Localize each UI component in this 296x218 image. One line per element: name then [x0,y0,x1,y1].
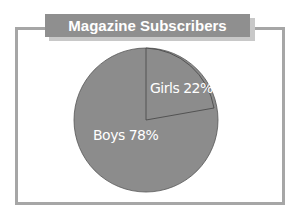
label-girls: Girls 22% [150,80,213,96]
pie-chart [0,0,296,218]
label-boys: Boys 78% [93,127,158,143]
